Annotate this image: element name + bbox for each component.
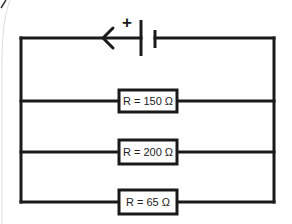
- resistor-2-label: R = 200 Ω: [123, 146, 173, 158]
- card-border: [2, 0, 10, 224]
- corner-mark: [1, 0, 6, 8]
- resistor-1-label: R = 150 Ω: [123, 95, 173, 107]
- branch-2: R = 200 Ω: [21, 140, 274, 164]
- battery: +: [122, 13, 155, 56]
- battery-plus-label: +: [122, 13, 132, 32]
- resistor-3-label: R = 65 Ω: [126, 196, 170, 208]
- circuit-diagram: + R = 150 Ω R = 200 Ω R = 65 Ω: [0, 0, 292, 224]
- branch-1: R = 150 Ω: [21, 90, 274, 112]
- branch-3: R = 65 Ω: [21, 190, 274, 214]
